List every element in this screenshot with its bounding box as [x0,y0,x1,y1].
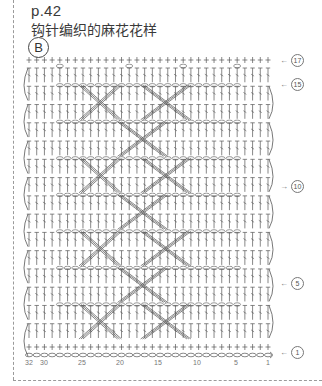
row-number: 15 [291,78,304,91]
stitch-number-label: 30 [40,359,48,366]
arrow-left-icon: ← [280,80,288,89]
row-number: 5 [291,277,304,290]
stitch-number-label: 20 [116,359,124,366]
stitch-number-label: 5 [234,359,238,366]
arrow-left-icon: ← [280,348,288,357]
row-number: 17 [291,54,304,67]
row-marker-1: ←1 [280,346,304,359]
arrow-left-icon: ← [280,56,288,65]
stitch-number-label: 25 [78,359,86,366]
row-marker-10: →10 [280,180,304,193]
row-number: 1 [291,346,304,359]
stitch-number-label: 10 [193,359,201,366]
row-marker-17: ←17 [280,54,304,67]
arrow-left-icon: ← [280,279,288,288]
row-number: 10 [291,180,304,193]
arrow-right-icon: → [280,182,288,191]
row-marker-5: ←5 [280,277,304,290]
row-marker-15: ←15 [280,78,304,91]
stitch-number-label: 15 [154,359,162,366]
stitch-number-label: 1 [266,359,270,366]
stitch-number-label: 32 [25,359,33,366]
crochet-chart [0,0,322,386]
